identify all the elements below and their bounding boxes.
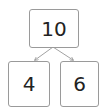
whole-box: 10 xyxy=(29,9,79,48)
left-part-value: 4 xyxy=(23,72,36,96)
right-part-box: 6 xyxy=(60,61,99,107)
arrow-to-left-part xyxy=(35,47,53,60)
left-part-box: 4 xyxy=(8,61,50,107)
arrow-to-right-part xyxy=(53,47,73,60)
whole-value: 10 xyxy=(41,17,66,41)
right-part-value: 6 xyxy=(73,72,86,96)
